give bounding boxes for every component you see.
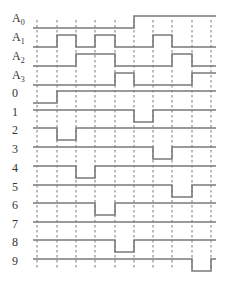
timing-diagram xyxy=(0,0,229,285)
waveform-a2 xyxy=(33,54,216,66)
waveform-output-1 xyxy=(33,110,216,122)
dashed-time-gridlines xyxy=(37,20,211,268)
label-output-4: 4 xyxy=(12,162,18,174)
waveform-output-2 xyxy=(33,128,216,140)
label-output-8: 8 xyxy=(12,236,18,248)
label-output-0: 0 xyxy=(12,87,18,99)
label-output-7: 7 xyxy=(12,218,18,230)
label-output-5: 5 xyxy=(12,181,18,193)
waveform-output-6 xyxy=(33,203,216,215)
label-output-9: 9 xyxy=(12,255,18,267)
waveform-output-4 xyxy=(33,166,216,178)
waveform-a0 xyxy=(33,16,216,28)
label-output-6: 6 xyxy=(12,199,18,211)
waveform-output-9 xyxy=(33,259,216,271)
label-output-1: 1 xyxy=(12,106,18,118)
signal-waveforms xyxy=(33,16,216,271)
label-a1: A1 xyxy=(12,31,25,48)
waveform-output-0 xyxy=(33,91,216,103)
waveform-a3 xyxy=(33,73,216,85)
label-output-2: 2 xyxy=(12,124,18,136)
label-output-3: 3 xyxy=(12,143,18,155)
label-a2: A2 xyxy=(12,50,25,67)
waveform-output-8 xyxy=(33,240,216,252)
waveform-output-5 xyxy=(33,185,216,197)
waveform-a1 xyxy=(33,35,216,47)
label-a3: A3 xyxy=(12,69,25,86)
waveform-output-3 xyxy=(33,147,216,159)
label-a0: A0 xyxy=(12,12,25,29)
